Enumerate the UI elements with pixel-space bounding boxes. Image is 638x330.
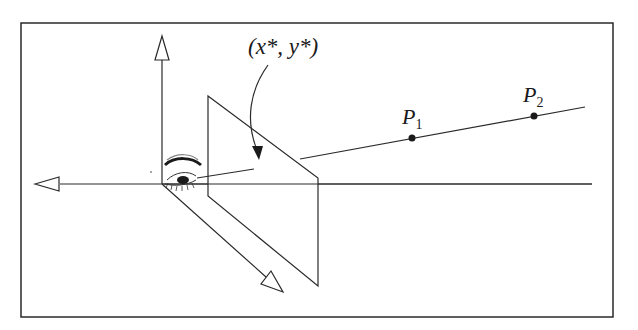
left-arrow-icon (35, 177, 59, 191)
ray-beyond-plane (300, 107, 585, 159)
up-arrow-icon (155, 36, 169, 60)
p1-label: P1 (401, 104, 422, 132)
projection-point-label: (x*, y*) (248, 34, 318, 59)
diagonal-arrow-icon (261, 271, 283, 292)
point-p2 (531, 113, 538, 120)
image-plane (208, 96, 318, 286)
perspective-projection-diagram: (x*, y*) P1 P2 (0, 0, 638, 330)
eye-icon (150, 155, 201, 191)
p2-label: P2 (522, 82, 543, 110)
point-p1 (409, 135, 416, 142)
